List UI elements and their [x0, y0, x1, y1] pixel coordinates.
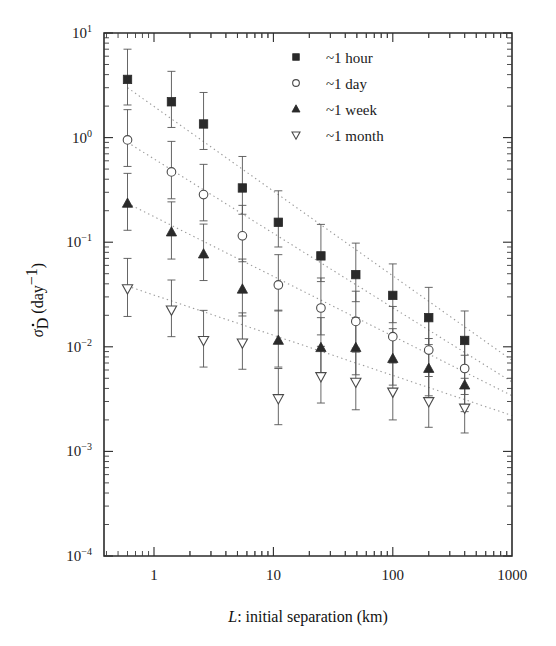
marker-open-circle — [317, 304, 326, 313]
x-tick-label: 10 — [266, 567, 281, 583]
marker-open-circle — [293, 80, 300, 87]
x-tick-label: 1000 — [497, 567, 527, 583]
marker-open-circle — [352, 317, 361, 326]
marker-filled-square — [238, 184, 246, 192]
marker-open-circle — [167, 168, 176, 177]
legend-label: ~1 day — [326, 76, 368, 92]
x-tick-label: 100 — [382, 567, 405, 583]
marker-filled-square — [167, 98, 175, 106]
marker-filled-square — [317, 252, 325, 260]
marker-filled-square — [389, 291, 397, 299]
x-axis-title: L: initial separation (km) — [227, 608, 388, 626]
marker-open-circle — [238, 232, 247, 241]
marker-filled-square — [199, 120, 207, 128]
marker-filled-square — [293, 54, 300, 61]
x-tick-label: 1 — [150, 567, 158, 583]
log-log-scatter-chart: 10110010−110−210−310−41101001000 ~1 hour… — [0, 0, 556, 646]
marker-filled-square — [274, 218, 282, 226]
marker-filled-square — [425, 313, 433, 321]
marker-open-circle — [424, 346, 433, 355]
marker-open-circle — [389, 332, 398, 341]
marker-open-circle — [123, 136, 132, 145]
sigma-dot-accent — [32, 324, 35, 327]
marker-open-circle — [460, 364, 469, 373]
legend-label: ~1 hour — [326, 50, 373, 66]
marker-open-circle — [274, 281, 283, 290]
figure-panel: 10110010−110−210−310−41101001000 ~1 hour… — [0, 0, 556, 646]
marker-filled-square — [123, 75, 131, 83]
legend-label: ~1 week — [326, 102, 378, 118]
legend-label: ~1 month — [326, 128, 384, 144]
marker-open-circle — [199, 190, 208, 199]
marker-filled-square — [460, 336, 468, 344]
marker-filled-square — [352, 270, 360, 278]
